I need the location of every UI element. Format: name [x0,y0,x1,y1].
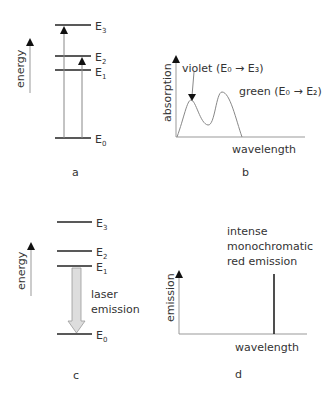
absorption-axis-label: absorption [161,63,174,122]
emission-axis-label: emission [164,273,177,322]
absorption-spectrum-curve [177,92,242,137]
energy-axis-label: energy [15,251,28,290]
panel-label-a: a [72,166,79,179]
level-label-e1: E1 [96,261,107,276]
panel-label-b: b [242,166,249,179]
annotation-line3: red emission [227,255,297,268]
panel-a: energy E3 E2 E1 E0 a [14,20,106,179]
panel-label-c: c [73,369,79,382]
laser-label-line1: laser [91,288,118,301]
panel-d: emission wavelength intense monochromati… [164,225,313,381]
wavelength-axis-label: wavelength [235,341,299,354]
level-label-e2: E2 [96,246,107,261]
energy-arrow-icon [26,38,34,46]
annotation-line2: monochromatic [227,240,313,253]
violet-pointer-line [192,72,194,96]
laser-emission-arrow-icon [68,268,85,333]
excitation-arrow-icon [78,57,86,65]
panel-c: energy E3 E2 E1 E0 laser emission c [15,217,140,382]
panel-label-d: d [235,368,242,381]
violet-annotation: violet (E₀ → E₃) [182,62,263,75]
level-label-e0: E0 [96,329,107,344]
annotation-line1: intense [227,225,268,238]
level-label-e1: E1 [95,66,106,81]
excitation-arrow-icon [60,26,68,34]
panel-b: absorption wavelength violet (E₀ → E₃) g… [161,55,322,179]
green-annotation: green (E₀ → E₂) [239,85,322,98]
energy-axis-label: energy [14,49,27,88]
violet-pointer-arrow-icon [188,94,196,101]
level-label-e2: E2 [95,51,106,66]
level-label-e0: E0 [95,133,106,148]
laser-energy-diagram: energy E3 E2 E1 E0 a absorption waveleng… [0,0,333,397]
laser-label-line2: emission [91,303,140,316]
energy-arrow-icon [27,242,35,250]
wavelength-axis-label: wavelength [232,143,296,156]
level-label-e3: E3 [96,217,107,232]
y-axis-arrow-icon [172,55,180,63]
level-label-e3: E3 [95,20,106,35]
